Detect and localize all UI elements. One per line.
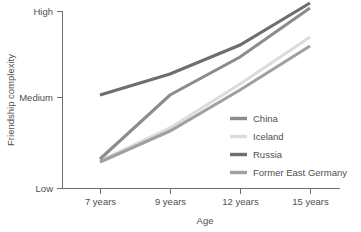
x-tick-label-15-years: 15 years: [292, 196, 329, 207]
y-tick-label-low: Low: [36, 183, 54, 194]
legend-item-iceland[interactable]: Iceland: [230, 131, 284, 142]
legend-label-former-east-germany: Former East Germany: [253, 167, 347, 178]
legend-item-china[interactable]: China: [230, 113, 279, 124]
legend: China Iceland Russia Former East Germany: [230, 113, 347, 178]
chart-canvas: High Medium Low 7 years 9 years 12 years…: [0, 0, 361, 232]
y-tick-label-medium: Medium: [19, 92, 53, 103]
y-axis-title: Friendship complexity: [5, 54, 16, 146]
series-line-iceland: [100, 37, 310, 161]
legend-item-russia[interactable]: Russia: [230, 149, 283, 160]
y-tick-label-high: High: [33, 6, 53, 17]
legend-item-former-east-germany[interactable]: Former East Germany: [230, 167, 347, 178]
line-chart: High Medium Low 7 years 9 years 12 years…: [0, 0, 361, 232]
x-tick-label-12-years: 12 years: [222, 196, 259, 207]
legend-label-china: China: [253, 113, 279, 124]
x-tick-label-9-years: 9 years: [155, 196, 186, 207]
series-line-russia: [100, 3, 310, 95]
legend-label-iceland: Iceland: [253, 131, 284, 142]
x-axis-title: Age: [197, 215, 214, 226]
legend-label-russia: Russia: [253, 149, 283, 160]
x-tick-label-7-years: 7 years: [85, 196, 116, 207]
